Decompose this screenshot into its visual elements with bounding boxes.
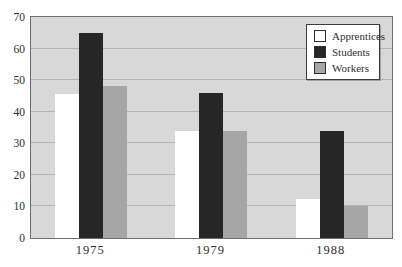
legend-swatch-workers [314,62,326,74]
bar-group-1979 [151,17,271,238]
y-axis-tick-label-50: 50 [0,74,25,87]
legend-label-students: Students [332,46,370,58]
bar-1975-apprentices [55,94,79,238]
x-axis-category-label-1975: 1975 [30,243,150,259]
legend-label-workers: Workers [332,62,369,74]
legend-swatch-apprentices [314,30,326,42]
y-axis-tick-label-40: 40 [0,106,25,119]
y-axis-tick-label-0: 0 [0,232,25,245]
y-axis-tick-label-70: 70 [0,11,25,24]
bar-1979-workers [223,131,247,238]
bar-group-1975 [31,17,151,238]
y-axis-tick-label-30: 30 [0,137,25,150]
bar-1988-workers [344,206,368,238]
y-axis-tick-label-10: 10 [0,200,25,213]
legend-label-apprentices: Apprentices [332,30,385,42]
x-axis-category-label-1979: 1979 [150,243,270,259]
bar-chart-figure: Apprentices Students Workers 01020304050… [0,0,402,267]
legend-item-workers: Workers [314,62,373,74]
bar-1988-apprentices [296,199,320,238]
bar-1988-students [320,131,344,238]
y-axis-tick-label-60: 60 [0,43,25,56]
y-axis-tick-label-20: 20 [0,169,25,182]
bar-1975-workers [103,86,127,238]
legend-item-apprentices: Apprentices [314,30,373,42]
x-axis-category-label-1988: 1988 [271,243,391,259]
legend-item-students: Students [314,46,373,58]
bar-1975-students [79,33,103,238]
bar-1979-apprentices [175,131,199,238]
bar-1979-students [199,93,223,238]
legend-swatch-students [314,46,326,58]
legend: Apprentices Students Workers [306,24,380,80]
